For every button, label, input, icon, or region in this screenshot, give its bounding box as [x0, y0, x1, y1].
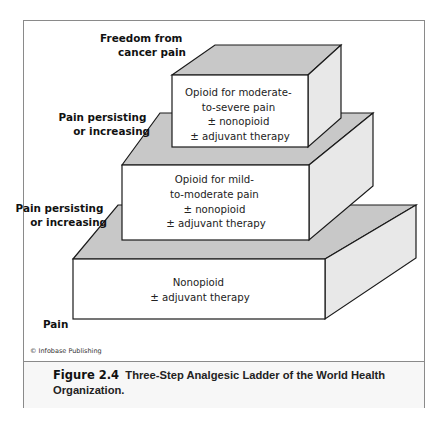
ladder-diagram: Opioid for moderate- to-severe pain ± no…: [0, 0, 447, 427]
label-freedom-from-pain: Freedom from cancer pain: [100, 32, 186, 58]
label-pain-persisting-lower: Pain persisting or increasing: [16, 202, 107, 228]
label-pain-persisting-upper: Pain persisting or increasing: [59, 111, 150, 137]
copyright-credit: © Infobase Publishing: [30, 347, 102, 355]
label-pain: Pain: [43, 318, 68, 330]
